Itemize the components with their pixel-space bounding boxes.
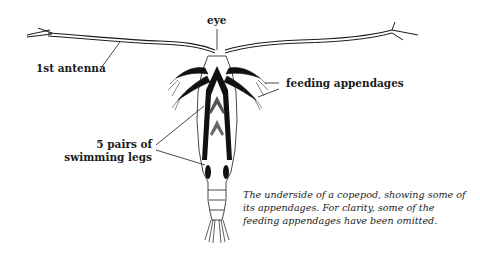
swimming-pointer-line-2	[156, 150, 205, 165]
caption-line-2: its appendages. For clarity, some of the	[243, 201, 480, 214]
swimming-legs-label-line2: swimming legs	[52, 151, 152, 163]
right-antenna	[225, 22, 418, 53]
caption-line-1: The underside of a copepod, showing some…	[243, 188, 480, 201]
feeding-pointer-line-2	[258, 89, 279, 97]
antenna-label: 1st antenna	[36, 62, 106, 74]
swimming-legs-label-line1: 5 pairs of	[72, 138, 152, 150]
feeding-appendages-label: feeding appendages	[286, 77, 404, 89]
caption-line-3: feeding appendages have been omitted.	[243, 214, 480, 227]
eye-label: eye	[207, 14, 226, 26]
figure-caption: The underside of a copepod, showing some…	[243, 188, 480, 227]
swimming-pointer-line-1	[156, 106, 204, 145]
left-antenna	[27, 28, 215, 53]
